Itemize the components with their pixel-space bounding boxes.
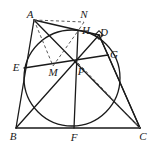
point-label-C: C	[139, 131, 146, 142]
point-label-P: P	[78, 66, 85, 77]
incircle	[24, 30, 120, 126]
point-label-G: G	[110, 49, 118, 60]
point-label-E: E	[13, 62, 20, 73]
point-label-B: B	[10, 131, 17, 142]
segment-HF	[74, 31, 78, 128]
point-label-H: H	[82, 25, 90, 36]
point-label-D: D	[100, 27, 108, 38]
dashed-segment-AM	[34, 20, 53, 66]
incircle-layer	[24, 30, 120, 126]
geometry-figure: ANHDGEMPBFC	[0, 0, 162, 147]
point-label-N: N	[80, 9, 87, 20]
point-label-A: A	[27, 9, 34, 20]
point-label-M: M	[48, 67, 57, 78]
segment-CG	[108, 55, 140, 128]
segment-EG	[24, 55, 108, 68]
segment-BD	[16, 35, 99, 128]
point-label-F: F	[71, 132, 78, 143]
